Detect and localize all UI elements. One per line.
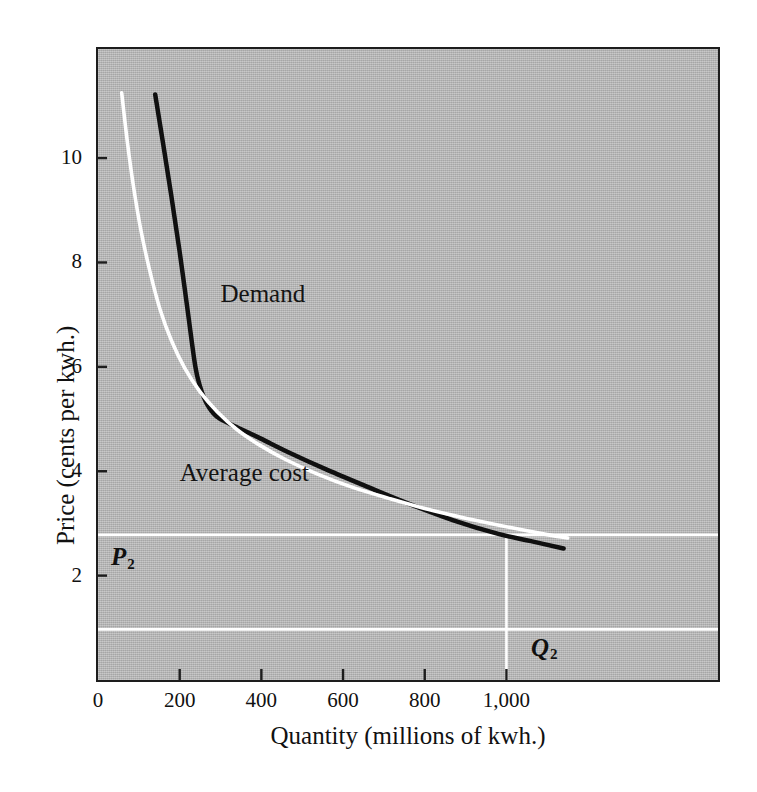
marker-p2: P2	[111, 544, 135, 571]
curve-label-demand: Demand	[221, 281, 306, 306]
figure-root: 246810 02004006008001,000 DemandAverage …	[0, 0, 757, 792]
y-tick-label-8: 8	[34, 251, 82, 272]
y-tick-label-2: 2	[34, 565, 82, 586]
plot-area	[96, 47, 720, 682]
x-tick-label-200: 200	[135, 690, 225, 711]
x-tick-label-800: 800	[380, 690, 470, 711]
x-tick-label-1000: 1,000	[461, 690, 551, 711]
x-tick-label-400: 400	[216, 690, 306, 711]
y-tick-label-10: 10	[34, 147, 82, 168]
y-axis-title: Price (cents per kwh.)	[52, 326, 80, 545]
marker-q2: Q2	[531, 635, 558, 662]
x-tick-label-600: 600	[298, 690, 388, 711]
chart-canvas	[98, 49, 718, 680]
x-axis-title: Quantity (millions of kwh.)	[96, 722, 720, 750]
marker-p2-base: P	[111, 543, 126, 570]
marker-q2-base: Q	[531, 634, 549, 661]
x-tick-label-0: 0	[53, 690, 143, 711]
curve-label-average-cost: Average cost	[180, 460, 309, 485]
marker-p2-subscript: 2	[127, 556, 135, 572]
marker-q2-subscript: 2	[550, 646, 558, 662]
